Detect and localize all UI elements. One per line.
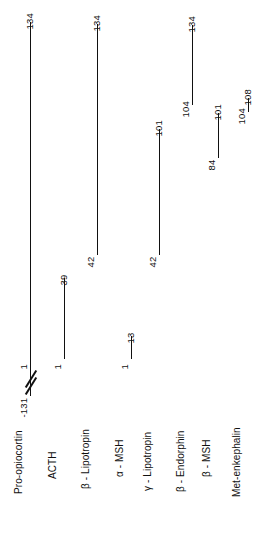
residue-number-bottom: 1 xyxy=(19,364,29,369)
residue-number-top: 134 xyxy=(187,16,197,32)
peptide-name-label: γ - Lipotropin xyxy=(143,432,153,491)
peptide-fragment-diagram: 1341-131Pro-opiocortin391ACTH13442β - Li… xyxy=(0,0,271,548)
peptide-bar xyxy=(30,22,31,396)
peptide-name-label: β - Lipotropin xyxy=(81,429,91,489)
residue-number-bottom: 1 xyxy=(53,364,63,369)
peptide-name-label: β - MSH xyxy=(202,439,212,477)
residue-number-top: 134 xyxy=(92,15,102,31)
residue-number-bottom: 42 xyxy=(86,257,96,268)
residue-number-top: 39 xyxy=(59,275,69,286)
residue-number-top: 13 xyxy=(126,333,136,344)
residue-number-bottom: 104 xyxy=(181,101,191,117)
residue-number-bottom: 1 xyxy=(120,364,130,369)
residue-number-top: 101 xyxy=(213,104,223,120)
peptide-name-label: Pro-opiocortin xyxy=(14,430,24,494)
residue-number-extra: -131 xyxy=(19,398,29,418)
peptide-bar xyxy=(192,25,193,105)
peptide-name-label: ACTH xyxy=(48,451,58,479)
peptide-name-label: α - MSH xyxy=(115,439,125,477)
peptide-name-label: β - Endorphin xyxy=(176,430,186,492)
peptide-bar xyxy=(159,129,160,255)
residue-number-bottom: 104 xyxy=(237,108,247,124)
residue-number-bottom: 84 xyxy=(207,160,217,171)
residue-number-top: 108 xyxy=(243,89,253,105)
residue-number-top: 101 xyxy=(154,120,164,136)
peptide-bar xyxy=(64,278,65,359)
residue-number-top: 134 xyxy=(25,13,35,29)
peptide-bar xyxy=(97,24,98,255)
peptide-name-label: Met-enkephalin xyxy=(232,427,242,497)
residue-number-bottom: 42 xyxy=(148,257,158,268)
